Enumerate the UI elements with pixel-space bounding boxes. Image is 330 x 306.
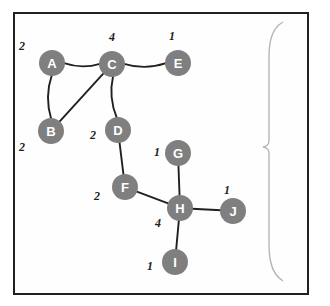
graph-node-i[interactable]: I xyxy=(162,249,188,275)
weight-label-g: 1 xyxy=(154,145,160,160)
graph-edge xyxy=(136,191,169,203)
weight-label-c: 4 xyxy=(109,30,115,45)
weight-label-i: 1 xyxy=(147,259,153,274)
graph-edge xyxy=(124,63,166,67)
graph-edge xyxy=(119,142,123,175)
graph-edge xyxy=(176,220,179,250)
edge-group xyxy=(48,63,221,250)
graph-edge xyxy=(111,76,117,118)
side-label-container: Whole graph network xyxy=(282,0,322,306)
graph-figure: ABCDEFGHIJ 2412212141 Whole graph networ… xyxy=(0,0,330,306)
graph-node-e[interactable]: E xyxy=(165,50,191,76)
graph-node-c[interactable]: C xyxy=(99,51,125,77)
curly-brace-icon xyxy=(263,22,283,281)
graph-node-f[interactable]: F xyxy=(112,174,138,200)
graph-edge xyxy=(48,75,52,119)
graph-edge xyxy=(178,165,179,196)
graph-node-j[interactable]: J xyxy=(220,198,246,224)
weight-label-b: 2 xyxy=(19,140,25,155)
graph-node-b[interactable]: B xyxy=(38,118,64,144)
graph-node-h[interactable]: H xyxy=(167,195,193,221)
graph-edge xyxy=(59,73,104,122)
weight-label-a: 2 xyxy=(19,39,25,54)
weight-label-h: 4 xyxy=(155,216,161,231)
weight-label-d: 2 xyxy=(90,128,96,143)
graph-node-a[interactable]: A xyxy=(39,50,65,76)
weight-label-f: 2 xyxy=(94,189,100,204)
weight-label-j: 1 xyxy=(224,183,230,198)
weight-label-e: 1 xyxy=(169,29,175,44)
graph-edge xyxy=(64,63,100,66)
graph-node-g[interactable]: G xyxy=(165,140,191,166)
graph-edge xyxy=(192,209,221,211)
graph-node-d[interactable]: D xyxy=(105,117,131,143)
